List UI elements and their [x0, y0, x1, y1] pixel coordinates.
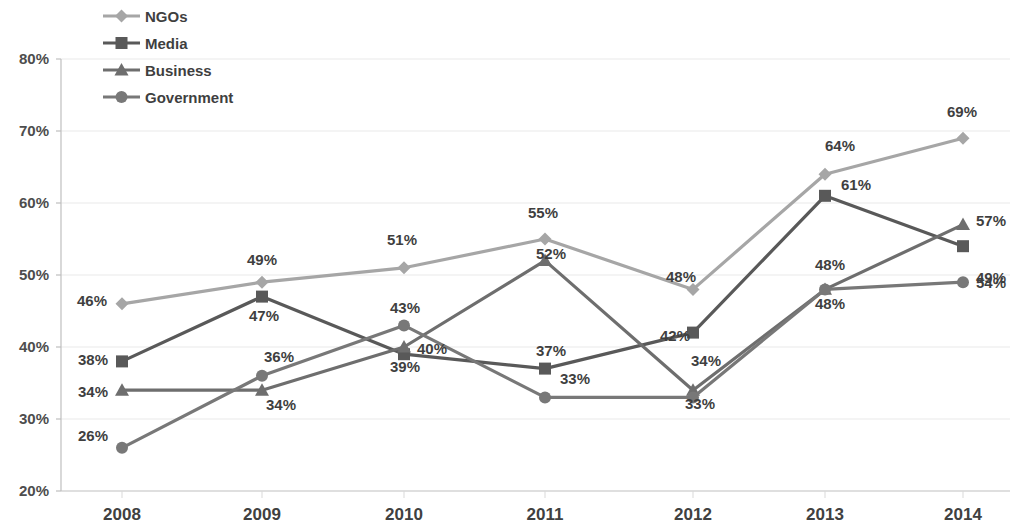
square-marker: [957, 240, 969, 252]
data-point-label: 48%: [666, 268, 696, 285]
x-axis-tick-label: 2010: [385, 505, 423, 524]
data-point-label: 47%: [249, 307, 279, 324]
line-chart: 20%30%40%50%60%70%80% 200820092010201120…: [0, 0, 1013, 527]
chart-legend: NGOsMediaBusinessGovernment: [103, 8, 233, 106]
x-axis-tick-label: 2014: [944, 505, 982, 524]
data-point-label: 49%: [976, 269, 1006, 286]
data-point-label: 26%: [78, 427, 108, 444]
data-point-label: 37%: [536, 342, 566, 359]
legend-label: Government: [145, 89, 233, 106]
y-axis-tick-label: 20%: [19, 482, 49, 499]
data-point-label: 51%: [387, 231, 417, 248]
data-point-label: 57%: [976, 212, 1006, 229]
data-point-label: 49%: [247, 251, 277, 268]
x-axis-tick-label: 2011: [527, 505, 564, 524]
gridlines: [61, 59, 1010, 491]
y-axis-tick-label: 70%: [19, 122, 49, 139]
y-axis-tick-label: 30%: [19, 410, 49, 427]
diamond-marker: [116, 297, 129, 310]
y-axis-tick-label: 60%: [19, 194, 49, 211]
circle-marker: [398, 319, 410, 331]
data-point-label: 48%: [815, 295, 845, 312]
data-point-label: 64%: [825, 137, 855, 154]
y-axis-tick-label: 40%: [19, 338, 49, 355]
diamond-marker: [115, 10, 128, 23]
diamond-marker: [957, 132, 970, 145]
data-point-label: 46%: [77, 292, 107, 309]
data-point-label: 69%: [947, 103, 977, 120]
circle-marker: [957, 276, 969, 288]
x-axis: 2008200920102011201220132014: [103, 491, 982, 524]
y-axis-tick-label: 80%: [19, 50, 49, 67]
data-point-label: 39%: [390, 358, 420, 375]
diamond-marker: [398, 261, 411, 274]
data-point-label: 34%: [78, 383, 108, 400]
x-axis-tick-label: 2008: [103, 505, 141, 524]
data-point-label: 34%: [266, 396, 296, 413]
legend-item-business[interactable]: Business: [103, 62, 212, 79]
legend-item-ngos[interactable]: NGOs: [103, 8, 188, 25]
triangle-marker: [397, 340, 411, 352]
diamond-marker: [539, 233, 552, 246]
data-point-label: 36%: [264, 348, 294, 365]
data-point-label: 43%: [390, 299, 420, 316]
square-marker: [819, 190, 831, 202]
x-axis-tick-label: 2009: [243, 505, 281, 524]
data-point-label: 42%: [660, 327, 690, 344]
legend-label: NGOs: [145, 8, 188, 25]
legend-label: Business: [145, 62, 212, 79]
data-point-label: 48%: [815, 256, 845, 273]
square-marker: [256, 291, 268, 303]
data-point-label: 61%: [841, 176, 871, 193]
series-line: [122, 138, 963, 304]
data-point-label: 55%: [528, 204, 558, 221]
data-point-label: 38%: [78, 351, 108, 368]
chart-canvas: 20%30%40%50%60%70%80% 200820092010201120…: [0, 0, 1013, 527]
series-ngos: [116, 132, 970, 311]
legend-item-media[interactable]: Media: [103, 35, 188, 52]
y-axis: 20%30%40%50%60%70%80%: [19, 50, 61, 499]
legend-label: Media: [145, 35, 188, 52]
y-axis-tick-label: 50%: [19, 266, 49, 283]
square-marker: [539, 363, 551, 375]
diamond-marker: [256, 276, 269, 289]
data-point-label: 33%: [560, 370, 590, 387]
square-marker: [116, 37, 128, 49]
data-point-label: 34%: [691, 352, 721, 369]
data-point-label: 33%: [685, 395, 715, 412]
x-axis-tick-label: 2013: [806, 505, 844, 524]
circle-marker: [819, 283, 831, 295]
data-point-label: 40%: [417, 340, 447, 357]
circle-marker: [116, 442, 128, 454]
x-axis-tick-label: 2012: [674, 505, 712, 524]
legend-item-government[interactable]: Government: [103, 89, 233, 106]
circle-marker: [116, 91, 128, 103]
square-marker: [116, 355, 128, 367]
triangle-marker: [956, 218, 970, 230]
circle-marker: [539, 391, 551, 403]
circle-marker: [256, 370, 268, 382]
data-point-label: 52%: [536, 245, 566, 262]
